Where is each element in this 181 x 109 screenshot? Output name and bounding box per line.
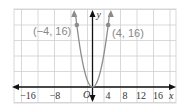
y-axis-label: y bbox=[96, 9, 102, 20]
x-tick-label: 4 bbox=[106, 90, 111, 101]
y-axis-up-arrow-icon bbox=[90, 10, 96, 17]
x-tick-label: −16 bbox=[20, 90, 36, 101]
point-label-left: (−4, 16) bbox=[33, 25, 71, 37]
x-tick-label: 8 bbox=[123, 90, 128, 101]
point-marker bbox=[75, 23, 80, 28]
x-tick-label: −8 bbox=[50, 90, 61, 101]
point-label-right: (4, 16) bbox=[112, 27, 144, 39]
x-tick-label: 12 bbox=[136, 90, 146, 101]
x-axis-left-arrow-icon bbox=[12, 84, 19, 90]
origin-label: O bbox=[83, 89, 90, 100]
curve-left-arrow-icon bbox=[71, 10, 77, 17]
y-axis-down-arrow-icon bbox=[90, 95, 96, 102]
point-marker bbox=[106, 23, 111, 28]
parabola-chart: (−4, 16)(4, 16)−16−8481216Oxy bbox=[0, 0, 181, 109]
x-tick-label: 16 bbox=[153, 90, 163, 101]
x-axis-label: x bbox=[168, 90, 174, 101]
grid-lines bbox=[14, 9, 176, 103]
curve-right-arrow-icon bbox=[108, 10, 114, 17]
